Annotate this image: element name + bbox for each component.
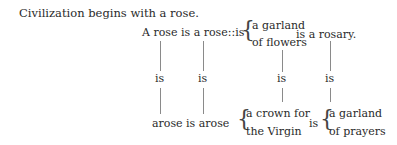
brace3-top: a garland bbox=[329, 108, 382, 119]
connector-line bbox=[160, 88, 161, 114]
title-line: Civilization begins with a rose. bbox=[19, 8, 199, 20]
connector-line bbox=[282, 50, 283, 72]
brace2-bottom: the Virgin bbox=[246, 126, 302, 137]
is-label: is bbox=[277, 73, 286, 84]
connector-line bbox=[330, 41, 331, 71]
connector-line bbox=[160, 41, 161, 71]
is-label: is bbox=[198, 73, 207, 84]
connector-line bbox=[282, 88, 283, 102]
connector-line bbox=[203, 41, 204, 71]
line-a-rose-is-a-rose: A rose is a rose::is bbox=[142, 27, 244, 38]
is-label: is bbox=[309, 118, 318, 129]
connector-line bbox=[203, 88, 204, 114]
brace3-bottom: of prayers bbox=[329, 126, 386, 137]
is-label: is bbox=[155, 73, 164, 84]
brace2-top: a crown for bbox=[246, 108, 310, 119]
is-label: is bbox=[325, 73, 334, 84]
line-arose-is-arose: arose is arose bbox=[152, 118, 229, 129]
line-is-a-rosary: is a rosary. bbox=[296, 29, 356, 40]
connector-line bbox=[330, 88, 331, 102]
